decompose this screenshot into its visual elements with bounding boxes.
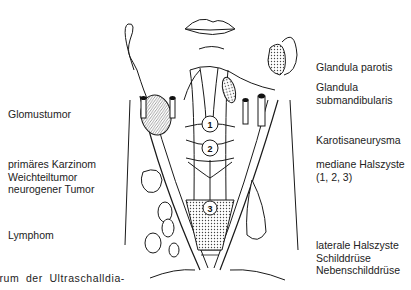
label-line: mediane Halszyste xyxy=(316,158,405,171)
lymph-node xyxy=(145,233,161,253)
glandula-parotis-shape xyxy=(268,44,285,75)
weichteiltumor-shape xyxy=(141,170,162,193)
label-lymphom: Lymphom xyxy=(8,229,54,242)
label-line: laterale Halszyste xyxy=(316,239,400,252)
caption-fragment: trum der Ultraschalldia- xyxy=(0,272,125,284)
lips xyxy=(185,19,235,34)
label-line: Glandula parotis xyxy=(316,61,392,74)
label-line: Schilddrüse xyxy=(316,252,400,265)
label-line: Lymphom xyxy=(8,229,54,242)
label-line: primäres Karzinom xyxy=(8,158,96,171)
label-lower-right: laterale Halszyste Schilddrüse Nebenschi… xyxy=(316,239,400,277)
left-ear xyxy=(125,24,137,70)
label-line: neurogener Tumor xyxy=(8,183,96,196)
label-line: Karotisaneurysma xyxy=(316,134,401,147)
lymph-node xyxy=(162,219,174,237)
svg-text:2: 2 xyxy=(207,144,212,154)
label-karotisaneurysma: Karotisaneurysma xyxy=(316,134,401,147)
label-line: (1, 2, 3) xyxy=(316,171,405,184)
svg-text:1: 1 xyxy=(207,120,212,130)
label-line: Glandula xyxy=(316,81,392,94)
glandula-submandibularis-shape xyxy=(220,76,238,104)
label-mediane-halszyste: mediane Halszyste (1, 2, 3) xyxy=(316,158,405,183)
label-glandula-parotis: Glandula parotis xyxy=(316,61,392,74)
label-line: Weichteiltumor xyxy=(8,171,96,184)
label-line: Glomustumor xyxy=(8,108,71,121)
label-glandula-submandibularis: Glandula submandibularis xyxy=(316,81,392,106)
label-line: submandibularis xyxy=(316,94,392,107)
label-glomustumor: Glomustumor xyxy=(8,108,71,121)
lymph-node xyxy=(169,243,179,257)
label-tumors: primäres Karzinom Weichteiltumor neuroge… xyxy=(8,158,96,196)
svg-text:3: 3 xyxy=(207,204,212,214)
label-line: Nebenschilddrüse xyxy=(316,264,400,277)
